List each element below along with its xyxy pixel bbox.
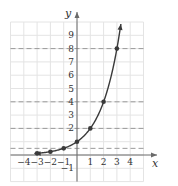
y-tick-label: 9 xyxy=(68,30,74,40)
data-point xyxy=(101,100,106,105)
x-tick-label: 4 xyxy=(127,157,133,167)
y-tick-label: 6 xyxy=(68,70,74,80)
x-tick-label: 3 xyxy=(114,157,120,167)
y-tick-label: 5 xyxy=(68,84,74,94)
x-tick-label: 1 xyxy=(87,157,93,167)
x-tick-label: −3 xyxy=(30,157,44,167)
y-tick-label: 3 xyxy=(68,110,74,120)
curve xyxy=(34,24,122,156)
y-tick-label: 7 xyxy=(68,57,74,67)
data-point xyxy=(88,126,93,131)
data-point xyxy=(61,146,66,151)
y-tick-label: 4 xyxy=(68,97,74,107)
exponential-graph: xy −4−3−2−11234−123456789 xyxy=(0,0,178,186)
curve-arrow-up-icon xyxy=(118,24,123,30)
x-tick-label: 2 xyxy=(101,157,107,167)
x-axis-label: x xyxy=(152,157,159,170)
x-tick-label: −4 xyxy=(17,157,31,167)
axes: xy xyxy=(11,7,160,182)
data-point xyxy=(48,149,53,154)
y-axis-arrow-icon xyxy=(75,12,80,18)
y-axis-label: y xyxy=(64,7,72,20)
data-point xyxy=(35,151,40,156)
y-tick-label: 2 xyxy=(68,123,74,133)
y-tick-label: −1 xyxy=(61,163,74,173)
x-tick-label: −2 xyxy=(44,157,57,167)
data-point xyxy=(115,46,120,51)
y-tick-label: 8 xyxy=(68,44,74,54)
data-point xyxy=(75,139,80,144)
